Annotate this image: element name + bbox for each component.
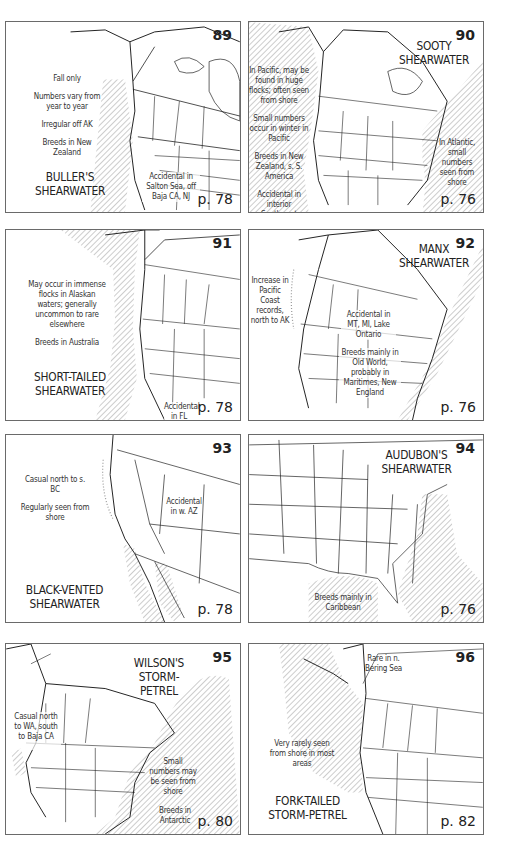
range-hatch <box>11 748 26 778</box>
species-title: SHORT-TAILED SHEARWATER <box>28 370 113 398</box>
callout: Accidental in FL <box>164 402 194 421</box>
note: Casual north to s. BC <box>20 475 90 495</box>
note: Breeds in New Zealand, s. S. America <box>249 152 309 182</box>
range-notes: May occur in immense flocks in Alaskan w… <box>26 280 108 356</box>
note: Breeds in Australia <box>26 338 108 348</box>
map-number: 95 <box>213 649 232 665</box>
range-notes: Casual north to WA, south to Baja CA <box>11 712 61 750</box>
page-reference: p. 76 <box>440 399 476 415</box>
note: Increase in Pacific Coast records, north… <box>249 276 291 326</box>
species-title: AUDUBON'S SHEARWATER <box>380 448 452 476</box>
page-reference: p. 78 <box>197 399 233 415</box>
map-number: 92 <box>456 235 475 251</box>
range-map-95-wilsons-storm-petrel: WILSON'S STORM-PETREL Casual north to WA… <box>5 643 241 835</box>
map-number: 90 <box>456 27 475 43</box>
note: Regularly seen from shore <box>20 503 90 523</box>
note: Fall only <box>28 74 106 84</box>
range-map-92-manx-shearwater: MANX SHEARWATER Increase in Pacific Coas… <box>248 229 484 421</box>
callout: In Atlantic, small numbers seen from sho… <box>437 138 477 188</box>
note: Very rarely seen from shore in most area… <box>267 739 337 769</box>
page-reference: p. 78 <box>197 601 233 617</box>
note: Irregular off AK <box>28 120 106 130</box>
range-notes: Increase in Pacific Coast records, north… <box>249 276 291 334</box>
range-map-91-short-tailed-shearwater: May occur in immense flocks in Alaskan w… <box>5 229 241 421</box>
page-reference: p. 80 <box>197 813 233 829</box>
note: Numbers vary from year to year <box>28 92 106 112</box>
note: Small numbers occur in winter in Pacific <box>249 114 309 144</box>
range-notes: Fall only Numbers vary from year to year… <box>28 74 106 166</box>
note: Casual north to WA, south to Baja CA <box>11 712 61 742</box>
callout: Accidental in w. AZ <box>164 497 204 517</box>
callout: Breeds mainly in Caribbean <box>314 593 372 613</box>
species-title: WILSON'S STORM-PETREL <box>121 656 198 698</box>
callout: Rare in n. Bering Sea <box>361 654 406 674</box>
callout-breeding: Breeds mainly in Old World, probably in … <box>339 348 401 398</box>
page-reference: p. 76 <box>440 601 476 617</box>
map-number: 93 <box>213 440 232 456</box>
callout: Accidental in MT, MI, Lake Ontario <box>341 310 396 340</box>
range-hatch <box>422 62 482 212</box>
page-reference: p. 78 <box>197 191 233 207</box>
page-reference: p. 82 <box>440 813 476 829</box>
callout: Accidental in Salton Sea, off Baja CA, N… <box>142 172 200 202</box>
note: May occur in immense flocks in Alaskan w… <box>26 280 108 330</box>
range-notes: In Pacific, may be found in huge flocks;… <box>249 66 309 213</box>
note: Accidental in interior Southwest <box>249 190 309 213</box>
map-number: 96 <box>456 649 475 665</box>
species-title: BULLER'S SHEARWATER <box>28 170 113 198</box>
range-map-93-black-vented-shearwater: Casual north to s. BC Regularly seen fro… <box>5 434 241 623</box>
page-reference: p. 76 <box>440 191 476 207</box>
range-map-90-sooty-shearwater: SOOTY SHEARWATER In Pacific, may be foun… <box>248 21 484 213</box>
range-notes: Casual north to s. BC Regularly seen fro… <box>20 475 90 531</box>
species-title: BLACK-VENTED SHEARWATER <box>20 583 109 611</box>
range-map-94-audubons-shearwater: AUDUBON'S SHEARWATER Breeds mainly in Ca… <box>248 434 484 623</box>
species-title: SOOTY SHEARWATER <box>396 39 473 67</box>
map-number: 89 <box>213 27 232 43</box>
map-number: 94 <box>456 440 475 456</box>
note: In Pacific, may be found in huge flocks;… <box>249 66 309 106</box>
callout: Small numbers may be seen from shore <box>149 757 197 797</box>
note: Breeds in New Zealand <box>28 138 106 158</box>
species-title: FORK-TAILED STORM-PETREL <box>263 794 352 822</box>
range-notes: Very rarely seen from shore in most area… <box>267 739 337 777</box>
callout-breeding: Breeds in Antarctic <box>156 806 194 826</box>
range-map-96-fork-tailed-storm-petrel: Rare in n. Bering Sea Very rarely seen f… <box>248 643 484 835</box>
range-map-89-bullers-shearwater: Fall only Numbers vary from year to year… <box>5 21 241 213</box>
map-number: 91 <box>213 235 232 251</box>
